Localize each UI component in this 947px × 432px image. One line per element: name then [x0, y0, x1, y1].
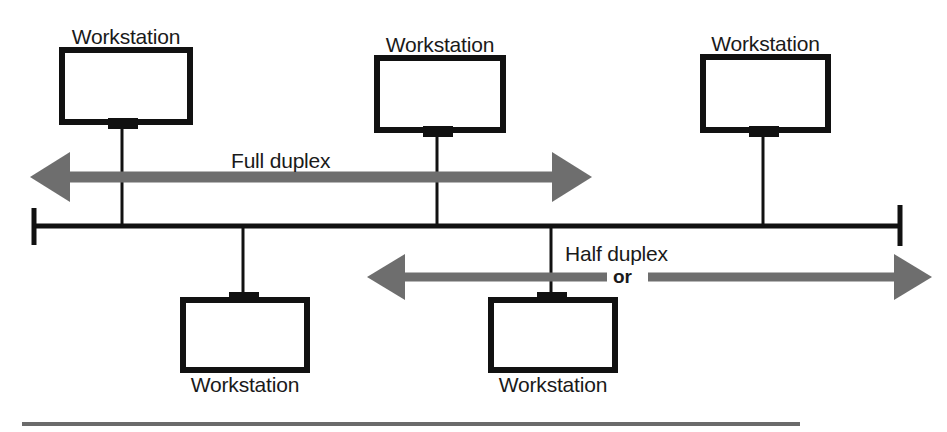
half-duplex-label: Half duplex [565, 243, 668, 264]
workstation-label-top-center: Workstation [377, 34, 503, 55]
half-duplex-arrowhead-left [367, 254, 405, 300]
workstation-box [62, 50, 190, 122]
network-bus [32, 205, 902, 246]
workstation-top-left[interactable] [62, 50, 190, 129]
workstation-box [491, 300, 615, 370]
workstation-top-right[interactable] [703, 57, 828, 137]
workstation-bottom-center[interactable] [491, 292, 615, 370]
or-connector-label: or [613, 267, 632, 286]
diagram-canvas: Workstation Workstation Workstation Work… [0, 0, 947, 432]
workstation-base-connector [108, 118, 138, 129]
workstation-label-top-left: Workstation [62, 26, 190, 47]
full-duplex-arrowhead-right [552, 152, 592, 202]
workstation-base-connector [749, 126, 779, 137]
workstation-box [703, 57, 828, 130]
workstation-bottom-left[interactable] [183, 292, 307, 370]
workstation-label-bottom-center: Workstation [491, 374, 615, 395]
half-duplex-arrowhead-right [894, 254, 932, 300]
workstation-base-connector [423, 126, 453, 137]
workstation-top-center[interactable] [377, 58, 503, 137]
workstation-box [377, 58, 503, 130]
full-duplex-arrowhead-left [30, 152, 70, 202]
workstation-box [183, 300, 307, 370]
workstation-label-top-right: Workstation [703, 33, 828, 54]
full-duplex-label: Full duplex [231, 150, 330, 171]
workstation-label-bottom-left: Workstation [183, 374, 307, 395]
